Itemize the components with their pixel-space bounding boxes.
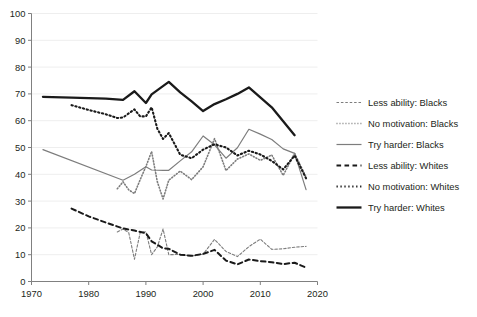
- legend-swatch-less-ability-blacks: [336, 97, 362, 108]
- y-tick-label: 40: [15, 169, 25, 180]
- legend-swatch-less-ability-whites: [336, 160, 362, 171]
- x-tick-label: 1970: [21, 288, 42, 299]
- y-tick-label: 70: [15, 88, 25, 99]
- y-tick-label: 80: [15, 62, 25, 73]
- chart-plot-area: 0102030405060708090100197019801990200020…: [0, 0, 335, 317]
- y-tick-label: 60: [15, 115, 25, 126]
- legend-item-no-motivation-whites[interactable]: No motivation: Whites: [336, 176, 477, 197]
- x-tick-label: 2010: [250, 288, 271, 299]
- chart-canvas: 0102030405060708090100197019801990200020…: [0, 0, 335, 317]
- y-tick-label: 100: [10, 8, 26, 19]
- x-tick-label: 2000: [193, 288, 214, 299]
- series-line-no-motivation-whites: [72, 105, 307, 178]
- y-tick-label: 20: [15, 222, 25, 233]
- legend-item-less-ability-blacks[interactable]: Less ability: Blacks: [336, 92, 477, 113]
- legend-swatch-try-harder-whites: [336, 202, 362, 213]
- x-tick-label: 1990: [135, 288, 156, 299]
- series-line-less-ability-whites: [72, 209, 307, 268]
- legend-item-less-ability-whites[interactable]: Less ability: Whites: [336, 155, 477, 176]
- y-tick-label: 30: [15, 196, 25, 207]
- legend-item-try-harder-whites[interactable]: Try harder: Whites: [336, 197, 477, 218]
- legend-item-no-motivation-blacks[interactable]: No motivation: Blacks: [336, 113, 477, 134]
- y-tick-label: 0: [20, 276, 25, 287]
- legend-label: No motivation: Whites: [368, 181, 459, 192]
- x-tick-label: 1980: [78, 288, 99, 299]
- legend-swatch-try-harder-blacks: [336, 139, 362, 150]
- legend-swatch-no-motivation-blacks: [336, 118, 362, 129]
- series-line-try-harder-blacks: [43, 129, 306, 189]
- legend-label: No motivation: Blacks: [368, 118, 458, 129]
- legend-label: Try harder: Whites: [368, 202, 445, 213]
- legend-label: Less ability: Whites: [368, 160, 448, 171]
- legend-item-try-harder-blacks[interactable]: Try harder: Blacks: [336, 134, 477, 155]
- y-tick-label: 10: [15, 249, 25, 260]
- x-tick-label: 2020: [307, 288, 328, 299]
- legend-swatch-no-motivation-whites: [336, 181, 362, 192]
- y-tick-label: 50: [15, 142, 25, 153]
- chart-figure: 0102030405060708090100197019801990200020…: [0, 0, 477, 317]
- chart-legend: Less ability: Blacks No motivation: Blac…: [336, 92, 477, 218]
- y-tick-label: 90: [15, 35, 25, 46]
- legend-label: Less ability: Blacks: [368, 97, 447, 108]
- legend-label: Try harder: Blacks: [368, 139, 444, 150]
